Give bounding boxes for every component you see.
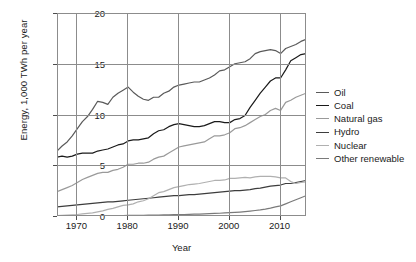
legend: Oil Coal Natural gas Hydro Nuclear Other… [316,86,416,165]
legend-swatch-oil [316,92,329,93]
legend-label-oil: Oil [334,88,346,98]
y-tick-mark-0 [53,216,57,217]
x-tick-label-2000: 2000 [207,220,251,231]
x-tick-label-1970: 1970 [54,220,98,231]
legend-label-coal: Coal [334,101,354,111]
x-tick-mark-1970 [76,216,77,220]
legend-swatch-hydro [316,132,329,133]
gridline-x-2000 [229,13,230,216]
x-axis-label: Year [57,242,306,253]
x-tick-label-2010: 2010 [258,220,302,231]
y-axis-label: Energy, 1,000 TWh per year [18,0,32,195]
legend-swatch-other-renewable [316,158,329,159]
gridline-x-1990 [178,13,179,216]
legend-swatch-nuclear [316,145,329,146]
energy-line-chart: Energy, 1,000 TWh per year 20 15 10 5 0 … [0,0,416,262]
x-tick-label-1990: 1990 [156,220,200,231]
x-tick-label-1980: 1980 [105,220,149,231]
legend-item-coal: Coal [316,99,416,112]
legend-label-hydro: Hydro [334,127,359,137]
legend-swatch-natural-gas [316,118,329,119]
x-tick-mark-2000 [229,216,230,220]
gridline-y-15 [57,64,306,65]
gridline-y-10 [57,115,306,116]
legend-item-oil: Oil [316,86,416,99]
x-tick-mark-1980 [127,216,128,220]
gridline-x-1970 [76,13,77,216]
legend-item-natural-gas: Natural gas [316,112,416,125]
gridline-y-5 [57,165,306,166]
legend-swatch-coal [316,105,329,106]
plot-area [57,13,306,216]
x-tick-mark-1990 [178,216,179,220]
gridline-x-2010 [280,13,281,216]
legend-item-other-renewable: Other renewable [316,152,416,165]
legend-label-natural-gas: Natural gas [334,114,383,124]
legend-label-nuclear: Nuclear [334,141,367,151]
legend-item-hydro: Hydro [316,126,416,139]
x-tick-mark-2010 [280,216,281,220]
legend-item-nuclear: Nuclear [316,139,416,152]
gridline-x-1980 [127,13,128,216]
legend-label-other-renewable: Other renewable [334,154,404,164]
